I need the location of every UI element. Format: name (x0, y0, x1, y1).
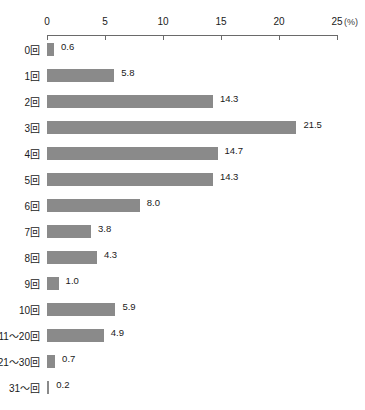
bar-container (47, 381, 49, 399)
category-label: 1回 (24, 71, 40, 83)
bar-row: 4回14.7 (0, 144, 365, 170)
category-label: 3回 (24, 123, 40, 135)
bar (47, 121, 296, 134)
bar-row: 5回14.3 (0, 170, 365, 196)
bar-value-label: 5.8 (121, 67, 134, 79)
category-label: 8回 (24, 253, 40, 265)
category-label: 31〜回 (9, 383, 40, 395)
bar (47, 95, 213, 108)
bar-row: 2回14.3 (0, 92, 365, 118)
bar-row: 11〜20回4.9 (0, 326, 365, 352)
bar-value-label: 14.3 (220, 171, 239, 183)
category-label: 21〜30回 (0, 357, 40, 369)
bar (47, 147, 218, 160)
bar (47, 225, 91, 238)
bar-container (47, 251, 97, 269)
bar-row: 31〜回0.2 (0, 378, 365, 404)
x-axis-tick-label-10: 10 (157, 17, 168, 27)
bar-container (47, 225, 91, 243)
bar (47, 381, 49, 394)
category-label: 11〜20回 (0, 331, 40, 343)
category-label: 5回 (24, 175, 40, 187)
bar (47, 199, 140, 212)
category-label: 10回 (19, 305, 40, 317)
x-axis-tick-label-5: 5 (102, 17, 108, 27)
bar-value-label: 21.5 (303, 119, 322, 131)
category-label: 0回 (24, 45, 40, 57)
x-axis-tick-label-25: 25 (331, 17, 342, 27)
bar-value-label: 3.8 (98, 223, 111, 235)
horizontal-bar-chart: 0510152025 (%) 0回0.61回5.82回14.33回21.54回1… (0, 0, 365, 410)
category-label: 7回 (24, 227, 40, 239)
x-axis-tick-label-20: 20 (273, 17, 284, 27)
bar-value-label: 8.0 (147, 197, 160, 209)
x-axis-unit-label: (%) (344, 18, 358, 27)
bar-container (47, 43, 54, 61)
bar-shadow (50, 384, 52, 397)
bar-row: 9回1.0 (0, 274, 365, 300)
bar-container (47, 95, 213, 113)
bar-container (47, 69, 114, 87)
bar-value-label: 0.6 (61, 41, 74, 53)
bar-value-label: 14.3 (220, 93, 239, 105)
bar-value-label: 0.2 (56, 379, 69, 391)
category-label: 9回 (24, 279, 40, 291)
bar (47, 43, 54, 56)
bar-row: 1回5.8 (0, 66, 365, 92)
x-axis-line (47, 35, 337, 36)
bar (47, 303, 115, 316)
bar-value-label: 1.0 (66, 275, 79, 287)
bar-value-label: 14.7 (225, 145, 244, 157)
x-axis-tick-label-15: 15 (215, 17, 226, 27)
category-label: 6回 (24, 201, 40, 213)
bar (47, 277, 59, 290)
bar-row: 10回5.9 (0, 300, 365, 326)
bar-container (47, 329, 104, 347)
bar-container (47, 121, 296, 139)
bar-container (47, 147, 218, 165)
bar-row: 3回21.5 (0, 118, 365, 144)
bar-row: 0回0.6 (0, 40, 365, 66)
bar-row: 8回4.3 (0, 248, 365, 274)
bar-value-label: 5.9 (122, 301, 135, 313)
category-label: 2回 (24, 97, 40, 109)
bar-row: 7回3.8 (0, 222, 365, 248)
bar (47, 355, 55, 368)
bar-container (47, 277, 59, 295)
bar (47, 173, 213, 186)
bar-row: 21〜30回0.7 (0, 352, 365, 378)
bar-row: 6回8.0 (0, 196, 365, 222)
bar (47, 251, 97, 264)
x-axis-tick-label-0: 0 (44, 17, 50, 27)
bar-container (47, 303, 115, 321)
category-label: 4回 (24, 149, 40, 161)
bar-value-label: 4.3 (104, 249, 117, 261)
bar (47, 69, 114, 82)
bar-value-label: 0.7 (62, 353, 75, 365)
bar-value-label: 4.9 (111, 327, 124, 339)
bar (47, 329, 104, 342)
bar-container (47, 199, 140, 217)
bar-container (47, 173, 213, 191)
bar-container (47, 355, 55, 373)
